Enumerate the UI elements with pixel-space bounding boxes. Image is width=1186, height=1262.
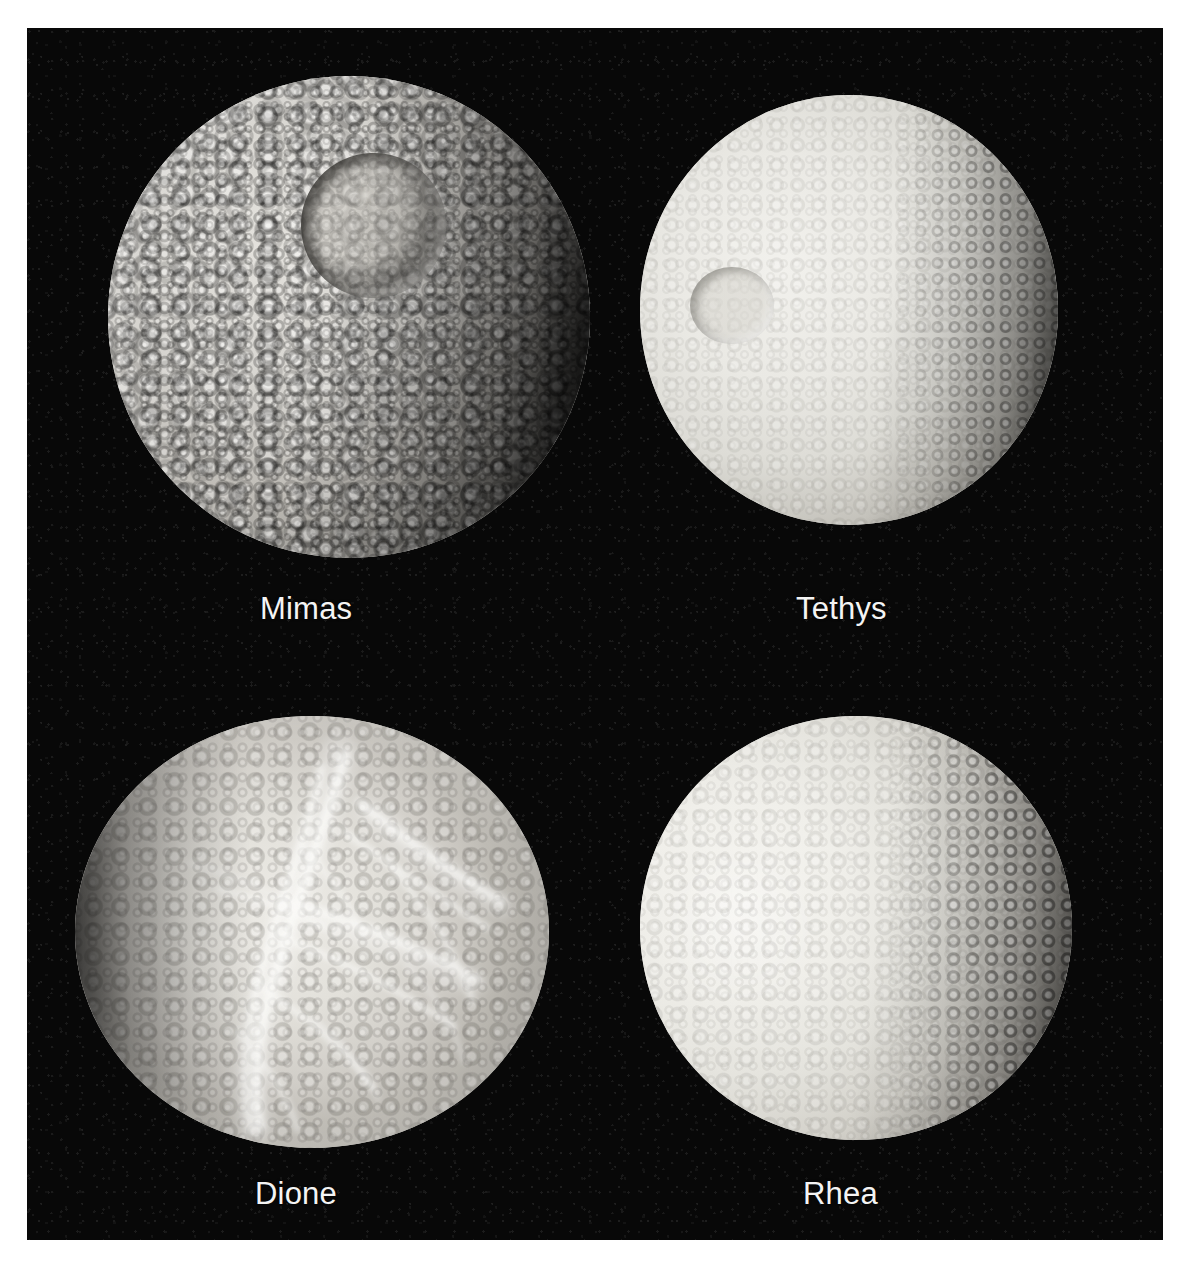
- dione-disk: [75, 716, 549, 1148]
- rhea-disk: [640, 716, 1072, 1140]
- moon-image-rhea: [640, 716, 1072, 1140]
- caption-rhea: Rhea: [803, 1176, 878, 1212]
- moon-image-mimas: [108, 76, 590, 558]
- rhea-terminator-shadow: [640, 716, 1072, 1140]
- moon-image-tethys: [640, 95, 1058, 525]
- moon-photo-panel: Mimas Tethys: [27, 28, 1163, 1240]
- tethys-terminator-shadow: [640, 95, 1058, 525]
- caption-dione: Dione: [255, 1176, 337, 1212]
- dione-limb-highlight: [75, 716, 549, 1148]
- moon-image-dione: [75, 716, 549, 1148]
- mimas-disk: [108, 76, 590, 558]
- tethys-disk: [640, 95, 1058, 525]
- mimas-limb-highlight: [108, 76, 590, 558]
- caption-tethys: Tethys: [796, 591, 887, 627]
- caption-mimas: Mimas: [260, 591, 352, 627]
